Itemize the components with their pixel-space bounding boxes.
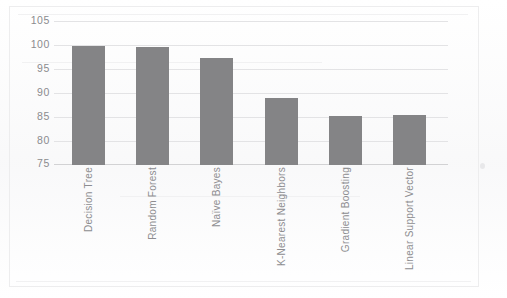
bar-linear-support-vector	[393, 115, 426, 165]
bar-gradient-boosting	[329, 116, 362, 165]
x-axis: Decision Tree Random Forest Naïve Bayes …	[54, 167, 448, 287]
x-tick-label: Decision Tree	[83, 167, 94, 277]
y-tick-label: 105	[14, 15, 50, 25]
bar-random-forest	[136, 47, 169, 165]
x-tick-label: Gradient Boosting	[340, 167, 351, 277]
y-tick-label: 90	[14, 87, 50, 97]
scan-artifact	[18, 14, 468, 15]
y-tick-label: 80	[14, 135, 50, 145]
x-tick-label: Naïve Bayes	[211, 167, 222, 277]
y-tick-label: 75	[14, 158, 50, 168]
x-tick-label: K-Nearest Neighbors	[276, 167, 287, 277]
bar-decision-tree	[72, 46, 105, 165]
scan-artifact	[480, 163, 485, 169]
bar-series	[54, 21, 448, 165]
y-tick-label: 95	[14, 63, 50, 73]
bar-k-nearest-neighbors	[265, 98, 298, 165]
bar-naive-bayes	[200, 58, 233, 165]
chart-figure: 105 100 95 90 85 80 75 Decision Tree Ran…	[0, 0, 507, 298]
y-axis: 105 100 95 90 85 80 75	[14, 14, 50, 172]
x-tick-label: Linear Support Vector	[404, 167, 415, 277]
x-tick-label: Random Forest	[147, 167, 158, 277]
y-tick-label: 100	[14, 39, 50, 49]
y-tick-label: 85	[14, 111, 50, 121]
